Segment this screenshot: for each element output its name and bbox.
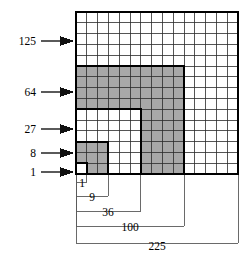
cube-label-125: 125 [19, 35, 37, 47]
cube-leader-arrows [41, 36, 74, 177]
figure-svg: 125642781 1936100225 [0, 0, 250, 266]
square-label-225: 225 [148, 240, 166, 252]
square-label-36: 36 [102, 206, 114, 218]
square-dimension-brackets [76, 175, 238, 243]
cube-label-27: 27 [25, 123, 37, 135]
cube-label-8: 8 [30, 147, 36, 159]
square-label-9: 9 [89, 191, 95, 203]
arrow-head-8 [60, 148, 74, 158]
arrow-head-27 [60, 124, 74, 134]
cube-value-labels: 125642781 [19, 35, 37, 178]
gnomon-step-outline-1 [76, 163, 87, 174]
nicomachus-figure: 125642781 1936100225 [0, 0, 250, 266]
arrow-head-1 [60, 167, 74, 177]
arrow-head-64 [60, 87, 74, 97]
bracket-225 [76, 175, 238, 243]
square-label-1: 1 [79, 177, 85, 189]
square-value-labels: 1936100225 [79, 177, 166, 252]
cube-label-64: 64 [25, 86, 37, 98]
arrow-head-125 [60, 36, 74, 46]
square-label-100: 100 [121, 221, 139, 233]
cube-label-1: 1 [30, 166, 36, 178]
